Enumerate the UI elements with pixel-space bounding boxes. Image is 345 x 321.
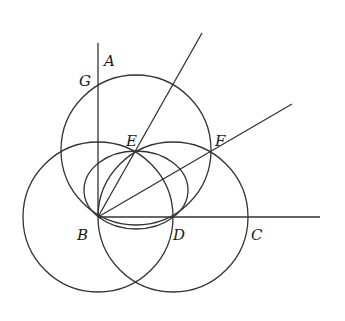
point-label-e: E [125, 132, 137, 150]
ray-BF [98, 104, 292, 217]
point-label-g: G [79, 72, 91, 90]
point-label-c: C [251, 226, 263, 244]
point-label-d: D [172, 226, 185, 244]
geometry-diagram: AGEFBDC [0, 0, 345, 321]
point-labels: AGEFBDC [76, 52, 263, 244]
point-label-a: A [102, 52, 115, 70]
point-label-f: F [214, 132, 226, 150]
point-label-b: B [76, 226, 88, 244]
construction-shapes [23, 33, 320, 292]
